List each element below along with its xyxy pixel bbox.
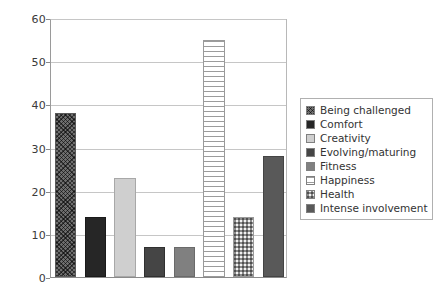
plot-area bbox=[50, 19, 287, 278]
y-axis-tick-mark bbox=[46, 278, 50, 279]
bar bbox=[263, 156, 284, 277]
legend-item-label: Health bbox=[320, 187, 354, 201]
y-axis-tick-label: 30 bbox=[2, 142, 46, 155]
y-axis-tick-label: 0 bbox=[2, 272, 46, 285]
legend-item: Evolving/maturing bbox=[306, 145, 427, 159]
bar bbox=[114, 178, 135, 277]
legend-item: Health bbox=[306, 187, 427, 201]
bar bbox=[55, 113, 76, 277]
legend-item-label: Intense involvement bbox=[320, 201, 428, 215]
bar bbox=[85, 217, 106, 277]
legend-swatch-icon bbox=[306, 120, 315, 129]
gridline bbox=[51, 192, 286, 193]
legend-swatch-icon bbox=[306, 204, 315, 213]
bar bbox=[233, 217, 254, 277]
legend-item: Fitness bbox=[306, 159, 427, 173]
legend-item: Comfort bbox=[306, 117, 427, 131]
legend-item-label: Being challenged bbox=[320, 103, 411, 117]
gridline bbox=[51, 105, 286, 106]
chart-legend: Being challengedComfortCreativityEvolvin… bbox=[300, 98, 433, 220]
y-axis-tick-label: 60 bbox=[2, 13, 46, 26]
legend-swatch-icon bbox=[306, 134, 315, 143]
legend-item: Creativity bbox=[306, 131, 427, 145]
legend-swatch-icon bbox=[306, 176, 315, 185]
legend-swatch-icon bbox=[306, 148, 315, 157]
legend-swatch-icon bbox=[306, 190, 315, 199]
y-axis-tick-label: 10 bbox=[2, 228, 46, 241]
y-axis: 0102030405060 bbox=[0, 0, 46, 296]
y-axis-tick-label: 40 bbox=[2, 99, 46, 112]
legend-item-label: Evolving/maturing bbox=[320, 145, 416, 159]
gridline bbox=[51, 19, 286, 20]
bar bbox=[174, 247, 195, 277]
legend-item-label: Comfort bbox=[320, 117, 363, 131]
gridline bbox=[51, 149, 286, 150]
legend-item: Intense involvement bbox=[306, 201, 427, 215]
legend-item-label: Happiness bbox=[320, 173, 375, 187]
legend-swatch-icon bbox=[306, 106, 315, 115]
legend-item: Being challenged bbox=[306, 103, 427, 117]
bar bbox=[203, 40, 224, 277]
legend-item-label: Fitness bbox=[320, 159, 356, 173]
bar-chart: 0102030405060 Being challengedComfortCre… bbox=[0, 0, 441, 296]
legend-item-label: Creativity bbox=[320, 131, 371, 145]
legend-swatch-icon bbox=[306, 162, 315, 171]
y-axis-tick-label: 50 bbox=[2, 56, 46, 69]
legend-item: Happiness bbox=[306, 173, 427, 187]
gridline bbox=[51, 62, 286, 63]
bar bbox=[144, 247, 165, 277]
y-axis-tick-label: 20 bbox=[2, 185, 46, 198]
